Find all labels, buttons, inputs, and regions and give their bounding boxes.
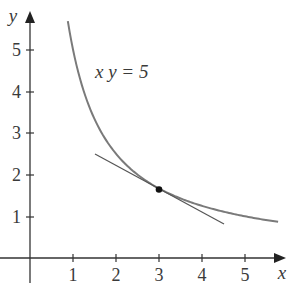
x-tick-label: 1 xyxy=(69,265,78,285)
x-axis-label: x xyxy=(277,262,287,283)
equation-label: x y = 5 xyxy=(94,61,148,82)
x-tick-label: 4 xyxy=(198,265,207,285)
x-tick-label: 2 xyxy=(112,265,121,285)
y-tick-label: 5 xyxy=(12,40,21,60)
y-tick-label: 4 xyxy=(12,82,21,102)
chart: 1 2 3 4 5 1 2 3 4 5 x y x y = 5 xyxy=(0,0,294,299)
y-axis-label: y xyxy=(7,5,18,26)
y-tick-label: 1 xyxy=(12,207,21,227)
x-tick-label: 3 xyxy=(155,265,164,285)
y-axis-arrow-icon xyxy=(25,11,35,23)
y-tick-label: 3 xyxy=(12,123,21,143)
tangent-point xyxy=(156,186,163,193)
hyperbola-curve xyxy=(68,21,278,222)
x-tick-label: 5 xyxy=(241,265,250,285)
y-tick-label: 2 xyxy=(12,165,21,185)
